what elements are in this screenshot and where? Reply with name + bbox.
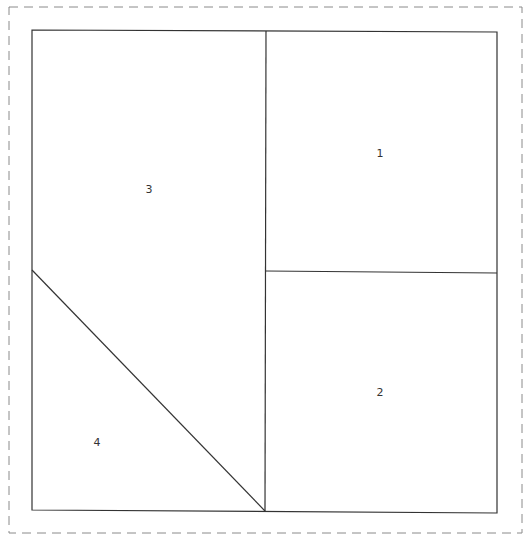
- region-label-1: 1: [377, 147, 384, 160]
- partition-diagram: 1234: [0, 0, 525, 550]
- horizontal-divider: [266, 271, 497, 273]
- outer-boundary: [32, 30, 497, 513]
- vertical-divider: [265, 31, 266, 511]
- diagonal-divider: [32, 270, 265, 511]
- region-label-4: 4: [94, 436, 101, 449]
- region-label-2: 2: [377, 386, 384, 399]
- region-label-3: 3: [146, 183, 153, 196]
